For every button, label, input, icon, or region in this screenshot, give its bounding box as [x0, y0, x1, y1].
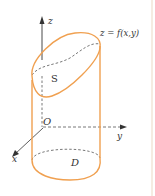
region-d-front-edge — [32, 158, 100, 180]
y-axis-arrow-icon — [120, 125, 127, 130]
region-d-label: D — [70, 157, 79, 168]
y-axis-label: y — [116, 131, 123, 141]
x-axis-label: x — [12, 154, 17, 164]
cylinder-under-surface-diagram: z z = f(x,y) S O y x D — [0, 0, 155, 196]
x-axis — [15, 128, 43, 154]
z-axis-arrow-icon — [40, 16, 45, 24]
origin-label: O — [43, 116, 51, 127]
surface-equation-label: z = f(x,y) — [99, 28, 139, 38]
surface-s-label: S — [51, 73, 58, 84]
region-d-back-edge — [32, 149, 100, 160]
z-axis-label: z — [47, 16, 53, 26]
